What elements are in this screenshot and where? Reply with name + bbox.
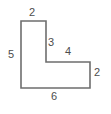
side-label-bottom: 6 (51, 91, 57, 102)
side-label-inner-vertical: 3 (48, 37, 54, 48)
side-label-left: 5 (8, 49, 14, 60)
side-label-right: 2 (94, 67, 100, 78)
polygon-path (21, 21, 90, 88)
side-label-inner-horizontal: 4 (65, 46, 71, 57)
geometry-figure: 2 5 3 4 2 6 (0, 0, 111, 114)
side-label-top: 2 (29, 7, 35, 18)
